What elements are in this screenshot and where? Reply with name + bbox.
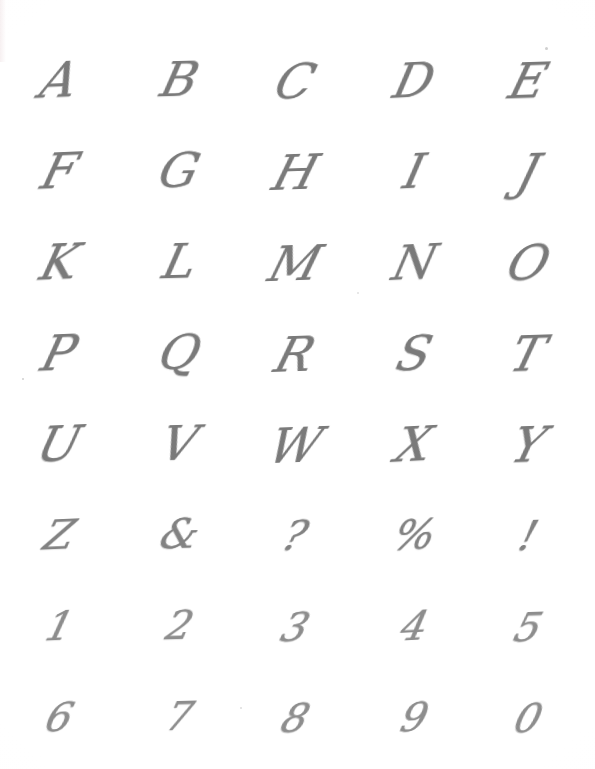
- glyph-cell: U: [2, 398, 119, 489]
- glyph-letter-d: D: [390, 54, 440, 104]
- glyph-row: F G H I J: [2, 125, 587, 216]
- glyph-cell: B: [119, 34, 236, 125]
- glyph-cell: V: [119, 398, 236, 489]
- glyph-digit-3: 3: [277, 606, 314, 647]
- glyph-cell: W: [236, 398, 353, 489]
- glyph-letter-h: H: [267, 147, 323, 196]
- glyph-letter-m: M: [264, 238, 328, 288]
- glyph-question-mark: ?: [278, 514, 313, 557]
- glyph-letter-e: E: [504, 56, 553, 105]
- glyph-cell: 9: [353, 671, 470, 762]
- glyph-cell: 5: [470, 580, 587, 671]
- glyph-cell: 2: [119, 580, 236, 671]
- glyph-row: U V W X Y: [2, 398, 587, 489]
- glyph-cell: E: [470, 34, 587, 125]
- glyph-cell: T: [470, 307, 587, 398]
- glyph-row: K L M N O: [2, 216, 587, 307]
- glyph-cell: L: [119, 216, 236, 307]
- glyph-cell: 0: [470, 671, 587, 762]
- glyph-digit-6: 6: [41, 696, 77, 737]
- glyph-cell: K: [2, 216, 119, 307]
- glyph-exclamation-mark: !: [514, 514, 543, 557]
- glyph-row: P Q R S T: [2, 307, 587, 398]
- glyph-letter-k: K: [35, 237, 84, 287]
- glyph-row: Z & ? % !: [2, 489, 587, 580]
- glyph-letter-q: Q: [154, 327, 205, 376]
- glyph-letter-r: R: [270, 329, 320, 378]
- glyph-cell: O: [470, 216, 587, 307]
- calligraphy-practice-sheet: A B C D E F G H I J K L M N O P Q R S: [0, 0, 595, 769]
- glyph-letter-i: I: [399, 146, 429, 195]
- glyph-digit-9: 9: [397, 696, 432, 737]
- glyph-digit-4: 4: [397, 605, 432, 646]
- glyph-digit-5: 5: [510, 606, 547, 647]
- glyph-cell: Y: [470, 398, 587, 489]
- glyph-ampersand: &: [156, 512, 204, 555]
- glyph-letter-f: F: [37, 146, 83, 195]
- glyph-row: A B C D E: [2, 34, 587, 125]
- glyph-cell: I: [353, 125, 470, 216]
- glyph-cell: A: [2, 34, 119, 125]
- glyph-cell: X: [353, 398, 470, 489]
- glyph-cell: F: [2, 125, 119, 216]
- glyph-cell: G: [119, 125, 236, 216]
- glyph-cell: 4: [353, 580, 470, 671]
- glyph-cell: Q: [119, 307, 236, 398]
- glyph-letter-o: O: [502, 238, 555, 287]
- glyph-letter-b: B: [156, 54, 203, 103]
- glyph-letter-l: L: [158, 236, 202, 285]
- glyph-cell: Z: [2, 489, 119, 580]
- glyph-cell: !: [470, 489, 587, 580]
- glyph-letter-u: U: [33, 419, 87, 469]
- glyph-letter-g: G: [155, 145, 205, 194]
- glyph-cell: 1: [2, 580, 119, 671]
- glyph-cell: N: [353, 216, 470, 307]
- glyph-letter-z: Z: [39, 513, 80, 556]
- glyph-cell: ?: [236, 489, 353, 580]
- glyph-digit-1: 1: [41, 605, 77, 646]
- glyph-letter-c: C: [270, 56, 321, 105]
- glyph-row: 6 7 8 9 0: [2, 671, 587, 762]
- glyph-letter-t: T: [506, 329, 551, 378]
- glyph-cell: C: [236, 34, 353, 125]
- glyph-letter-j: J: [512, 147, 545, 196]
- glyph-cell: R: [236, 307, 353, 398]
- glyph-cell: M: [236, 216, 353, 307]
- glyph-letter-a: A: [36, 55, 84, 104]
- glyph-letter-n: N: [388, 236, 442, 286]
- glyph-letter-w: W: [264, 420, 328, 470]
- glyph-grid: A B C D E F G H I J K L M N O P Q R S: [0, 0, 595, 769]
- glyph-cell: 8: [236, 671, 353, 762]
- glyph-cell: 3: [236, 580, 353, 671]
- glyph-cell: 6: [2, 671, 119, 762]
- glyph-digit-2: 2: [162, 604, 197, 645]
- glyph-letter-y: Y: [506, 420, 551, 469]
- glyph-digit-8: 8: [277, 697, 314, 738]
- glyph-digit-7: 7: [162, 695, 197, 736]
- glyph-cell: %: [353, 489, 470, 580]
- glyph-cell: S: [353, 307, 470, 398]
- glyph-letter-v: V: [157, 418, 204, 467]
- glyph-letter-s: S: [392, 328, 437, 378]
- glyph-cell: 7: [119, 671, 236, 762]
- glyph-cell: P: [2, 307, 119, 398]
- glyph-cell: &: [119, 489, 236, 580]
- glyph-row: 1 2 3 4 5: [2, 580, 587, 671]
- glyph-percent-sign: %: [389, 512, 439, 556]
- glyph-letter-p: P: [37, 328, 82, 377]
- glyph-letter-x: X: [392, 419, 438, 469]
- glyph-digit-0: 0: [510, 697, 547, 738]
- glyph-cell: H: [236, 125, 353, 216]
- glyph-cell: D: [353, 34, 470, 125]
- glyph-cell: J: [470, 125, 587, 216]
